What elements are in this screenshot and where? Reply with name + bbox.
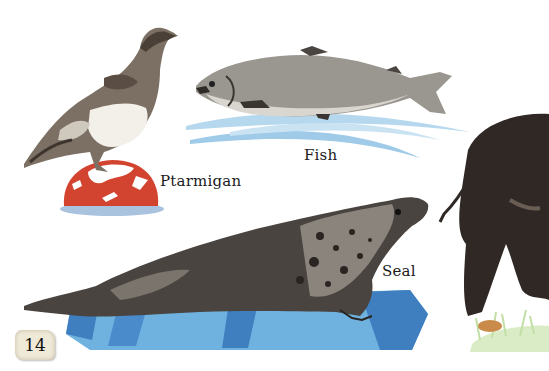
ptarmigan-illustration <box>0 0 549 371</box>
label-fish: Fish <box>304 146 337 164</box>
page-number: 14 <box>24 335 46 355</box>
label-seal: Seal <box>382 262 416 280</box>
scene-artwork <box>0 0 549 371</box>
page-number-badge: 14 <box>15 330 55 360</box>
label-ptarmigan: Ptarmigan <box>160 172 241 190</box>
